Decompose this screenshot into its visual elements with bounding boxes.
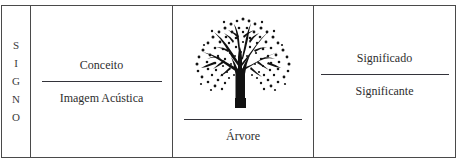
tree-divider-rule: [184, 119, 302, 120]
tree-caption: Árvore: [226, 129, 260, 144]
tree-illustration: [181, 12, 305, 116]
signo-letter-o: O: [12, 109, 20, 127]
column-concept: Conceito Imagem Acústica: [30, 6, 172, 157]
concept-upper-term: Conceito: [80, 58, 123, 73]
signo-vertical-label: S I G N O: [12, 36, 20, 127]
concept-lower-term: Imagem Acústica: [60, 91, 144, 106]
signo-letter-i: I: [14, 54, 18, 72]
signo-letter-n: N: [12, 91, 20, 109]
concept-divider-rule: [42, 81, 162, 82]
column-tree: Árvore: [172, 6, 313, 157]
signification-lower-term: Significante: [356, 84, 414, 99]
column-signo: S I G N O: [2, 6, 30, 157]
signification-upper-term: Significado: [357, 51, 412, 66]
column-signification: Significado Significante: [313, 6, 455, 157]
signo-letter-s: S: [13, 36, 19, 54]
signification-divider-rule: [321, 74, 449, 75]
saussure-sign-diagram: S I G N O Conceito Imagem Acústica: [1, 5, 456, 158]
signo-letter-g: G: [12, 72, 20, 90]
